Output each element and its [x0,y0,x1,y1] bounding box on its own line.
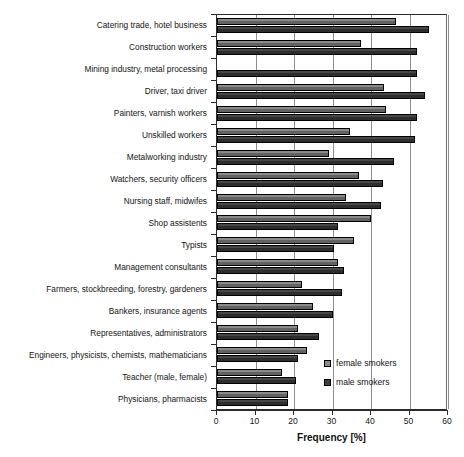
bar-female [217,172,359,179]
y-tick [211,322,216,323]
y-tick [211,344,216,345]
bar-male [217,26,429,33]
y-tick [211,212,216,213]
bar-row [217,300,446,322]
bar-row [217,37,446,59]
x-axis-title: Frequency [%] [216,432,447,443]
bar-rows [217,15,446,409]
category-label: Construction workers [0,36,212,58]
y-tick [211,168,216,169]
y-tick [211,102,216,103]
x-tick [370,410,371,415]
bar-male [217,267,344,274]
bar-row [217,146,446,168]
bar-male [217,202,381,209]
x-tick-label: 20 [288,416,297,426]
bar-female [217,128,350,135]
bar-male [217,223,338,230]
bar-female [217,18,396,25]
legend-label: male smokers [336,377,389,387]
bar-row [217,321,446,343]
y-tick [211,300,216,301]
bar-row [217,256,446,278]
bar-male [217,333,319,340]
bar-male [217,377,296,384]
bar-female [217,259,338,266]
bar-female [217,215,371,222]
category-label: Physicians, pharmacists [0,388,212,410]
x-tick [293,410,294,415]
bar-female [217,281,302,288]
plot-area [216,14,447,410]
y-tick [211,124,216,125]
x-tick [409,410,410,415]
legend-swatch-male [324,379,331,386]
y-tick [211,410,216,411]
chart-legend: female smokersmale smokers [324,358,397,387]
x-tick-label: 40 [365,416,374,426]
bar-row [217,103,446,125]
category-label: Engineers, physicists, chemists, mathema… [0,344,212,366]
smoking-frequency-bar-chart: Catering trade, hotel businessConstructi… [0,0,464,457]
bar-female [217,325,298,332]
bar-male [217,92,425,99]
x-tick-label: 60 [442,416,451,426]
bar-row [217,190,446,212]
bar-row [217,212,446,234]
bar-female [217,84,384,91]
y-tick [211,146,216,147]
category-label: Representatives, administrators [0,322,212,344]
category-label: Painters, varnish workers [0,102,212,124]
x-tick [447,410,448,415]
y-tick [211,190,216,191]
bar-male [217,355,298,362]
y-tick [211,58,216,59]
category-label: Driver, taxi driver [0,80,212,102]
x-tick [332,410,333,415]
legend-item: female smokers [324,358,397,368]
bar-row [217,278,446,300]
bar-male [217,180,383,187]
bar-male [217,245,334,252]
category-label: Shop assistents [0,212,212,234]
bar-row [217,168,446,190]
category-labels: Catering trade, hotel businessConstructi… [0,14,212,410]
x-tick-label: 0 [214,416,219,426]
bar-male [217,399,288,406]
x-tick-label: 50 [404,416,413,426]
y-tick [211,80,216,81]
bar-row [217,124,446,146]
bar-female [217,391,288,398]
bar-male [217,289,342,296]
bar-male [217,114,417,121]
y-tick [211,278,216,279]
bar-row [217,59,446,81]
bar-female [217,303,313,310]
category-label: Typists [0,234,212,256]
y-tick [211,256,216,257]
bar-male [217,70,417,77]
category-label: Teacher (male, female) [0,366,212,388]
legend-item: male smokers [324,377,397,387]
bar-male [217,158,394,165]
bar-female [217,237,354,244]
category-label: Unskilled workers [0,124,212,146]
x-tick-label: 10 [250,416,259,426]
category-label: Metalworking industry [0,146,212,168]
bar-male [217,48,417,55]
y-tick [211,14,216,15]
x-tick [255,410,256,415]
x-tick-label: 30 [327,416,336,426]
category-label: Bankers, insurance agents [0,300,212,322]
legend-label: female smokers [336,358,397,368]
bar-row [217,387,446,409]
category-label: Management consultants [0,256,212,278]
category-label: Nursing staff, midwifes [0,190,212,212]
bar-row [217,81,446,103]
bar-row [217,15,446,37]
bar-female [217,369,282,376]
category-label: Catering trade, hotel business [0,14,212,36]
category-label: Watchers, security officers [0,168,212,190]
category-label: Mining industry, metal processing [0,58,212,80]
bar-female [217,40,361,47]
